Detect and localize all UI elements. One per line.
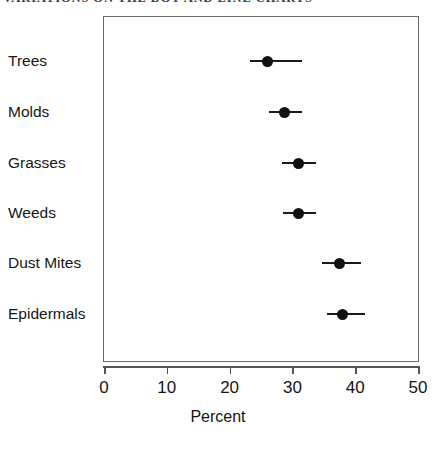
x-tick-label-0: 0	[99, 378, 108, 398]
data-point-marker	[293, 208, 304, 219]
data-point-marker	[293, 158, 304, 169]
x-tick-50	[418, 366, 420, 374]
x-tick-10	[167, 366, 169, 374]
category-label-weeds: Weeds	[8, 204, 56, 222]
data-point-marker	[337, 309, 348, 320]
x-tick-30	[292, 366, 294, 374]
data-point-marker	[334, 258, 345, 269]
data-point-marker	[279, 107, 290, 118]
category-label-molds: Molds	[8, 103, 49, 121]
plot-inner	[103, 16, 419, 362]
x-tick-40	[355, 366, 357, 374]
category-label-epidermals: Epidermals	[8, 305, 86, 323]
x-axis-line	[103, 366, 419, 368]
data-point-marker	[262, 56, 273, 67]
x-tick-label-50: 50	[409, 378, 428, 398]
category-label-dust-mites: Dust Mites	[8, 254, 81, 272]
x-tick-label-10: 10	[157, 378, 176, 398]
x-tick-label-30: 30	[283, 378, 302, 398]
dot-and-line-chart: Percent TreesMoldsGrassesWeedsDust Mites…	[0, 0, 436, 453]
x-tick-20	[230, 366, 232, 374]
x-tick-label-20: 20	[220, 378, 239, 398]
category-label-trees: Trees	[8, 52, 47, 70]
category-label-grasses: Grasses	[8, 154, 66, 172]
x-axis-title: Percent	[0, 408, 436, 426]
error-bar	[250, 60, 301, 62]
x-tick-label-40: 40	[346, 378, 365, 398]
x-tick-0	[104, 366, 106, 374]
